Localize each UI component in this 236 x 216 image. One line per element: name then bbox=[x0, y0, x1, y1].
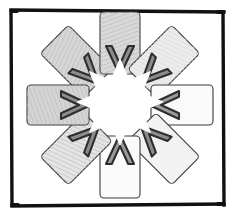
frame-right-edge bbox=[223, 12, 224, 205]
figure-container: Radial arrangement of eight hatched rect… bbox=[0, 0, 236, 216]
radial-tiles-diagram bbox=[0, 0, 236, 216]
frame-bottom-edge bbox=[12, 204, 224, 206]
center-star bbox=[77, 59, 163, 145]
frame-left-edge bbox=[11, 11, 12, 205]
tile-w[interactable] bbox=[27, 85, 91, 125]
